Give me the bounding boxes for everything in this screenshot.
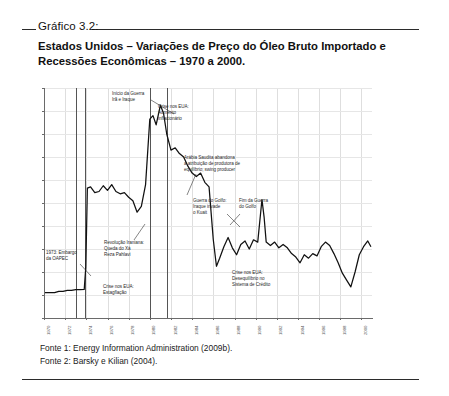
y-axis-tick-mark xyxy=(42,272,44,273)
x-axis-tick-label: 1992 xyxy=(278,326,283,335)
x-axis-tick-mark xyxy=(129,318,130,320)
y-axis-tick-mark xyxy=(42,111,44,112)
x-axis-tick-label: 2000 xyxy=(363,326,368,335)
x-axis-tick-mark xyxy=(192,318,193,320)
x-axis-tick-mark xyxy=(298,318,299,320)
x-axis-tick-label: 1984 xyxy=(194,326,199,335)
x-axis-tick-mark xyxy=(171,318,172,320)
source-note: Fonte 1: Energy Information Administrati… xyxy=(40,342,232,355)
caption-rule-right xyxy=(92,29,419,30)
y-axis-tick-mark xyxy=(42,203,44,204)
caption-rule-left xyxy=(22,29,36,30)
x-axis-tick-mark xyxy=(44,318,45,320)
x-axis-tick-label: 1976 xyxy=(109,326,114,335)
x-axis-tick-mark xyxy=(213,318,214,320)
x-axis-tick-label: 1986 xyxy=(215,326,220,335)
x-axis-tick-mark xyxy=(86,318,87,320)
x-axis-line xyxy=(44,318,373,319)
x-axis-tick-mark xyxy=(340,318,341,320)
x-axis-tick-mark xyxy=(256,318,257,320)
annotation-iran-rev: Revolução Iraniana: Queda do Xá Reza Pah… xyxy=(104,240,144,259)
x-axis-tick-label: 1978 xyxy=(130,326,135,335)
x-axis-tick-label: 1974 xyxy=(88,326,93,335)
x-axis-tick-label: 1998 xyxy=(342,326,347,335)
x-axis-tick-mark xyxy=(150,318,151,320)
annotation-gulf-war: Guerra do Golfo: Iraque invade o Kuait xyxy=(193,198,226,217)
x-axis-tick-mark xyxy=(277,318,278,320)
x-axis-tick-label: 1994 xyxy=(300,326,305,335)
annotation-oapec: 1973: Embargo da OAPEC xyxy=(46,250,77,262)
source-notes: Fonte 1: Energy Information Administrati… xyxy=(40,342,232,367)
annotation-iran-iraq: Início da Guerra Irã e Iraque xyxy=(112,91,144,103)
x-axis-tick-label: 1982 xyxy=(173,326,178,335)
figure-container: Gráfico 3.2: Estados Unidos – Variações … xyxy=(0,0,449,396)
x-axis-tick-mark xyxy=(108,318,109,320)
y-axis-tick-mark xyxy=(42,134,44,135)
y-axis-tick-mark xyxy=(42,157,44,158)
annotation-gulf-end: Fim da Guerra do Golfo xyxy=(239,198,268,210)
x-axis-tick-mark xyxy=(235,318,236,320)
x-axis-tick-label: 1996 xyxy=(321,326,326,335)
y-axis-tick-mark xyxy=(42,226,44,227)
x-axis-tick-mark xyxy=(65,318,66,320)
x-axis-tick-label: 1990 xyxy=(257,326,262,335)
figure-bottom-rule xyxy=(22,379,419,380)
x-axis-tick-label: 1972 xyxy=(67,326,72,335)
leader-line-iran-rev xyxy=(134,224,145,240)
y-axis-tick-mark xyxy=(42,295,44,296)
y-axis-tick-mark xyxy=(42,249,44,250)
annotation-stagflation: Crise nos EUA: Estagflação xyxy=(103,284,134,296)
leader-line-oapec xyxy=(80,264,91,276)
x-axis-tick-mark xyxy=(319,318,320,320)
y-axis-line xyxy=(44,88,45,319)
y-axis-tick-mark xyxy=(42,180,44,181)
source-note: Fonte 2: Barsky e Kilian (2004). xyxy=(40,355,232,368)
x-axis-tick-label: 1970 xyxy=(46,326,51,335)
annotation-credit: Crise nos EUA: Desequilíbrio no Sistema … xyxy=(232,270,270,289)
x-axis-tick-mark xyxy=(361,318,362,320)
chart-plot-area: $100$90$80$70$60$50$40$30$20$10$- 197019… xyxy=(44,88,372,318)
figure-caption-label: Gráfico 3.2: xyxy=(38,20,99,32)
x-axis-tick-label: 1988 xyxy=(236,326,241,335)
leader-line-saudi xyxy=(187,174,196,195)
annotation-saudi: Arábia Saudita abandona a atribuição de … xyxy=(184,155,240,174)
x-axis-tick-label: 1980 xyxy=(151,326,156,335)
annotation-inflation: Crise nos EUA: Aumento inflacionário xyxy=(158,104,189,123)
y-axis-tick-mark xyxy=(42,88,44,89)
leader-line-gulf-end xyxy=(230,214,240,225)
chart-title: Estados Unidos – Variações de Preço do Ó… xyxy=(38,39,418,68)
